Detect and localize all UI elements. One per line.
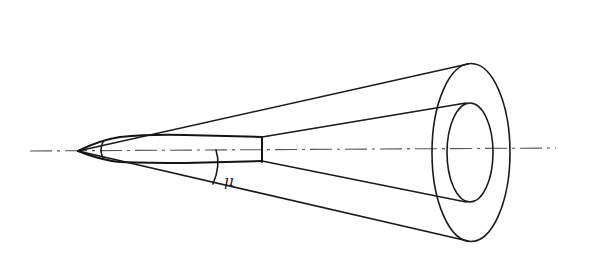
inner-cone-bottom-line [262, 161, 466, 202]
mach-angle-arc [213, 150, 218, 184]
nose-arc [101, 142, 103, 158]
outer-ring-ellipse [432, 64, 510, 242]
inner-ring-ellipse [447, 103, 493, 202]
outer-cone-top-line [78, 64, 468, 151]
axis-centerline [30, 148, 556, 151]
outer-cone-bottom-line [78, 151, 468, 241]
projectile-body-top [78, 135, 262, 151]
mach-angle-label: μ [224, 172, 234, 190]
mach-cone-diagram: μ [0, 0, 594, 262]
inner-cone-top-line [262, 103, 466, 137]
